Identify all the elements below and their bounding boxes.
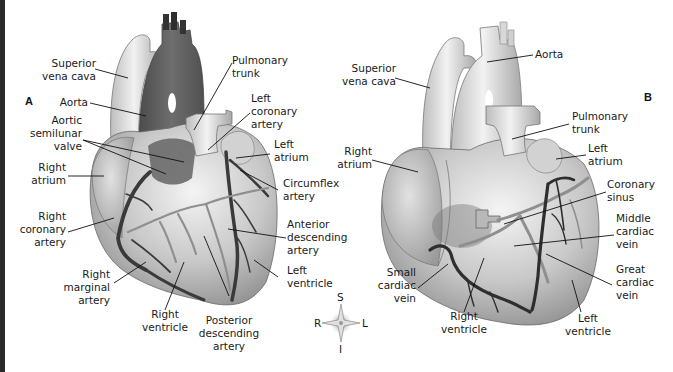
label-b-small-cardiac-vein: Small cardiac vein [370, 266, 416, 305]
label-a-anterior-descending-artery: Anterior descending artery [287, 218, 353, 257]
panel-label-a: A [25, 95, 33, 107]
label-b-middle-cardiac-vein: Middle cardiac vein [616, 212, 672, 251]
compass-left: L [362, 317, 368, 329]
label-b-superior-vena-cava: Superior vena cava [336, 62, 396, 88]
label-b-great-cardiac-vein: Great cardiac vein [616, 263, 672, 302]
label-a-posterior-descending-artery: Posterior descending artery [196, 314, 262, 353]
label-a-superior-vena-cava: Superior vena cava [40, 57, 96, 83]
compass-inferior: I [339, 343, 342, 355]
label-a-right-coronary-artery: Right coronary artery [14, 210, 66, 249]
label-a-pulmonary-trunk: Pulmonary trunk [232, 54, 302, 80]
label-b-coronary-sinus: Coronary sinus [607, 178, 673, 204]
label-a-left-ventricle: Left ventricle [287, 264, 337, 290]
panel-label-b: B [644, 91, 652, 103]
label-a-aorta: Aorta [40, 96, 88, 109]
label-b-aorta: Aorta [535, 48, 575, 61]
compass-rose [322, 304, 360, 342]
label-b-right-atrium: Right atrium [332, 145, 372, 171]
label-b-pulmonary-trunk: Pulmonary trunk [572, 110, 642, 136]
compass-right: R [314, 317, 321, 329]
label-b-left-atrium: Left atrium [588, 142, 638, 168]
compass-superior: S [337, 291, 344, 303]
label-a-left-atrium: Left atrium [274, 138, 324, 164]
label-a-right-marginal-artery: Right marginal artery [56, 268, 110, 307]
label-a-aortic-semilunar-valve: Aortic semilunar valve [26, 114, 82, 153]
label-b-left-ventricle: Left ventricle [560, 312, 616, 338]
label-a-right-atrium: Right atrium [20, 161, 66, 187]
label-a-circumflex-artery: Circumflex artery [283, 177, 349, 203]
label-a-left-coronary-artery: Left coronary artery [251, 92, 311, 131]
label-b-right-ventricle: Right ventricle [436, 310, 492, 336]
label-a-right-ventricle: Right ventricle [140, 308, 190, 334]
